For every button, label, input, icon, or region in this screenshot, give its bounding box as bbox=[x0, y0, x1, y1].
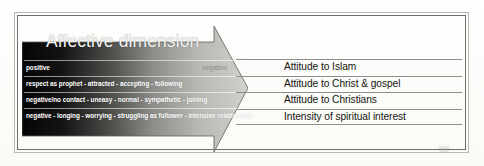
page-title: Affective dimension bbox=[46, 31, 199, 52]
scale-row: negative/no contact - uneasy - normal - … bbox=[24, 92, 248, 108]
scale-row-list: positive negative respect as prophet - a… bbox=[24, 60, 248, 124]
label-row: Attitude to Christians bbox=[236, 92, 462, 109]
scale-row-label: respect as prophet - attracted - accepti… bbox=[26, 80, 182, 87]
label-row: Attitude to Islam bbox=[236, 59, 462, 76]
scale-row-faint-label: negative bbox=[202, 64, 228, 71]
label-text: Intensity of spiritual interest bbox=[284, 111, 406, 122]
scale-row-label: negative - longing - worrying - struggli… bbox=[26, 112, 253, 119]
label-text: Attitude to Christ & gospel bbox=[284, 78, 400, 89]
scale-row: negative - longing - worrying - struggli… bbox=[24, 108, 248, 124]
label-row: Attitude to Christ & gospel bbox=[236, 76, 462, 93]
scale-row-label: negative/no contact - uneasy - normal - … bbox=[26, 96, 207, 103]
label-text: Attitude to Islam bbox=[284, 61, 356, 72]
affective-dimension-figure: Affective dimension positive negative re… bbox=[0, 0, 484, 166]
label-column: Attitude to Islam Attitude to Christ & g… bbox=[236, 59, 462, 125]
label-row: Intensity of spiritual interest bbox=[236, 109, 462, 126]
label-text: Attitude to Christians bbox=[284, 94, 377, 105]
scale-row: positive negative bbox=[24, 60, 248, 76]
scan-speckle bbox=[438, 146, 450, 152]
scale-row: respect as prophet - attracted - accepti… bbox=[24, 76, 248, 92]
scale-row-label: positive bbox=[26, 64, 50, 71]
